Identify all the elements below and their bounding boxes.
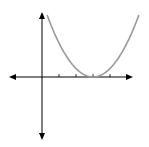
x-axis-right-arrow [126,74,133,80]
y-axis-top-arrow [39,12,45,19]
x-axis-left-arrow [9,74,16,80]
parabola-curve [47,15,139,77]
parabola-graph [0,0,149,147]
y-axis-bottom-arrow [39,133,45,140]
